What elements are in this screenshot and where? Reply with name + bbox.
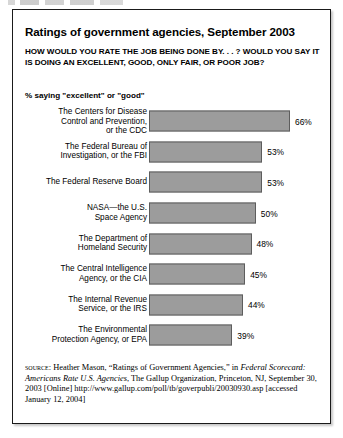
bar-row: The Internal Revenue Service, or the IRS… (13, 290, 330, 321)
bar-value-label: 66% (290, 116, 312, 126)
bar-row: The Central Intelligence Agency, or the … (13, 259, 330, 290)
source-label: SOURCE: (25, 362, 51, 372)
legend-note: % saying "excellent" or "good" (25, 91, 145, 100)
page-title: Ratings of government agencies, Septembe… (25, 25, 295, 38)
bar-value-label: 48% (252, 239, 274, 249)
figure-page: Ratings of government agencies, Septembe… (0, 0, 343, 438)
source-note: SOURCE: Heather Mason, “Ratings of Gover… (25, 362, 321, 405)
bar (149, 294, 243, 315)
bar-category-label: The Internal Revenue Service, or the IRS (23, 295, 147, 314)
scan-edge-artifact (8, 0, 128, 5)
bar-category-label: NASA—the U.S. Space Agency (23, 204, 147, 223)
bar (149, 264, 245, 285)
bar-value-label: 53% (262, 147, 284, 157)
bar-category-label: The Federal Bureau of Investigation, or … (23, 142, 147, 161)
bar (149, 111, 290, 132)
bar-category-label: The Federal Reserve Board (23, 178, 147, 188)
bar-category-label: The Environmental Protection Agency, or … (23, 326, 147, 345)
bar-category-label: The Department of Homeland Security (23, 234, 147, 253)
bar-row: The Federal Bureau of Investigation, or … (13, 137, 330, 168)
bar-value-label: 50% (256, 208, 278, 218)
bar-row: The Environmental Protection Agency, or … (13, 320, 330, 351)
bar (149, 141, 262, 162)
bar-row: The Federal Reserve Board53% (13, 167, 330, 198)
figure-frame: Ratings of government agencies, Septembe… (12, 9, 331, 424)
bar-row: The Centers for Disease Control and Prev… (13, 106, 330, 137)
bar-value-label: 44% (243, 300, 265, 310)
bar-category-label: The Centers for Disease Control and Prev… (23, 107, 147, 136)
bar-row: NASA—the U.S. Space Agency50% (13, 198, 330, 229)
bar-category-label: The Central Intelligence Agency, or the … (23, 265, 147, 284)
bar (149, 325, 232, 346)
bar (149, 172, 262, 193)
bar-value-label: 53% (262, 177, 284, 187)
bar-chart-plot: The Centers for Disease Control and Prev… (13, 106, 330, 356)
bar (149, 233, 252, 254)
survey-question: HOW WOULD YOU RATE THE JOB BEING DONE BY… (25, 46, 321, 68)
bar-row: The Department of Homeland Security48% (13, 228, 330, 259)
bar (149, 203, 256, 224)
source-author: Heather Mason, “Ratings of Government Ag… (51, 363, 240, 372)
bar-value-label: 45% (245, 269, 267, 279)
bar-value-label: 39% (232, 330, 254, 340)
